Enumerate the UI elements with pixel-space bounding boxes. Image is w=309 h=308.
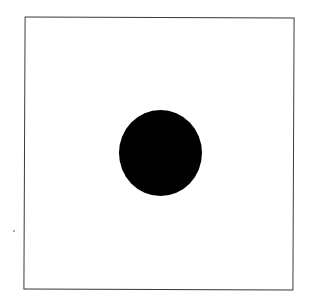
black-circle — [119, 110, 202, 196]
stray-mark — [13, 230, 15, 232]
